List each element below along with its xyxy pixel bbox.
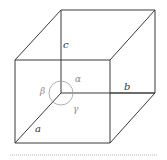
label-b: b	[124, 81, 130, 92]
edge-a	[15, 93, 61, 143]
connecting-edge-bottom-right	[110, 93, 155, 143]
label-gamma: γ	[73, 104, 79, 114]
label-beta: β	[39, 86, 45, 96]
label-c: c	[63, 39, 69, 50]
label-alpha: α	[75, 74, 81, 84]
connecting-edge-top-right	[110, 10, 155, 60]
unit-cell-diagram: c b a α β γ	[0, 0, 167, 160]
connecting-edge-top-left	[15, 10, 61, 60]
label-a: a	[35, 123, 41, 134]
front-face	[15, 60, 110, 143]
